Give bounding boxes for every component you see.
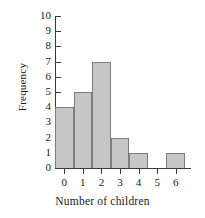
y-tick-label: 5	[31, 86, 51, 97]
x-tick-mark	[176, 169, 177, 174]
y-tick-label: 7	[31, 56, 51, 67]
y-tick-label: 4	[31, 101, 51, 112]
y-tick-label: 1	[31, 147, 51, 158]
y-tick-mark	[56, 62, 61, 63]
y-tick-label: 9	[31, 25, 51, 36]
bar	[74, 92, 93, 168]
x-tick-mark	[101, 169, 102, 174]
y-tick-label: 8	[31, 40, 51, 51]
histogram-chart: Frequency 012345678910 0123456 Number of…	[0, 0, 205, 218]
y-tick-mark	[56, 31, 61, 32]
x-tick-label: 4	[131, 176, 147, 188]
y-tick-label: 0	[31, 162, 51, 173]
x-tick-label: 6	[168, 176, 184, 188]
bar	[55, 107, 74, 168]
bar	[129, 153, 148, 168]
y-tick-label: 10	[31, 10, 51, 21]
y-axis-title: Frequency	[14, 22, 30, 152]
x-tick-mark	[83, 169, 84, 174]
x-tick-label: 1	[75, 176, 91, 188]
y-tick-label: 2	[31, 132, 51, 143]
y-tick-mark	[56, 16, 61, 17]
y-tick-label: 3	[31, 116, 51, 127]
bar	[166, 153, 185, 168]
x-axis-title: Number of children	[0, 194, 205, 208]
x-tick-mark	[157, 169, 158, 174]
x-tick-mark	[120, 169, 121, 174]
x-axis-line	[55, 168, 191, 169]
x-tick-mark	[139, 169, 140, 174]
x-tick-label: 2	[93, 176, 109, 188]
y-tick-label: 6	[31, 71, 51, 82]
x-tick-mark	[64, 169, 65, 174]
y-tick-mark	[56, 46, 61, 47]
y-tick-mark	[56, 77, 61, 78]
y-tick-mark	[56, 92, 61, 93]
x-tick-label: 5	[149, 176, 165, 188]
y-tick-mark	[56, 168, 61, 169]
x-tick-label: 0	[56, 176, 72, 188]
bar	[111, 138, 130, 168]
x-tick-label: 3	[112, 176, 128, 188]
bar	[92, 62, 111, 168]
